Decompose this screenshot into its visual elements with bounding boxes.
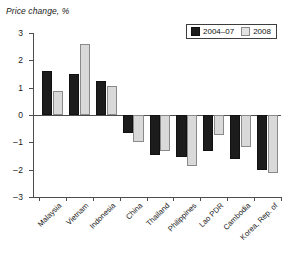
light-square-icon: [241, 27, 250, 36]
x-tick-label-china: China: [124, 201, 144, 221]
y-tick-mark: 2: [29, 170, 33, 171]
x-tick-mark: [200, 197, 201, 201]
bar-china-200407: [123, 115, 133, 133]
x-tick-label-vietnam: Vietnam: [65, 201, 91, 227]
y-axis-title: Price change, %: [6, 6, 69, 16]
y-tick-label: 1: [13, 137, 23, 147]
x-tick-mark: [93, 197, 94, 201]
x-tick-mark: [120, 197, 121, 201]
x-tick-label-malaysia: Malaysia: [36, 201, 64, 229]
y-tick-mark: 3: [29, 197, 33, 198]
y-tick-mark: 3: [29, 33, 33, 34]
chart-legend: 2004–072008: [186, 24, 277, 39]
x-tick-mark: [66, 197, 67, 201]
bar-indonesia-200407: [96, 81, 106, 115]
x-tick-mark: [254, 197, 255, 201]
bar-vietnam-2008: [80, 44, 90, 115]
x-tick-mark: [39, 197, 40, 201]
bar-philippines-2008: [187, 115, 197, 166]
x-tick-mark: [227, 197, 228, 201]
y-tick-mark: 1: [29, 142, 33, 143]
y-tick-label: 3: [13, 192, 23, 202]
y-tick-mark: 1: [29, 88, 33, 89]
bar-cambodia-200407: [230, 115, 240, 159]
legend-label: 2004–07: [203, 27, 234, 36]
bar-china-2008: [133, 115, 143, 142]
bar-korea-rep-of-200407: [257, 115, 267, 170]
bar-malaysia-2008: [53, 91, 63, 115]
y-tick-mark: 2: [29, 60, 33, 61]
y-tick-label: 2: [18, 55, 23, 65]
bar-thailand-2008: [160, 115, 170, 151]
bar-indonesia-2008: [107, 86, 117, 115]
x-axis-line: [33, 197, 281, 198]
bar-cambodia-2008: [241, 115, 251, 147]
bar-thailand-200407: [150, 115, 160, 155]
bar-vietnam-200407: [69, 74, 79, 115]
legend-label: 2008: [253, 27, 271, 36]
bar-lao-pdr-2008: [214, 115, 224, 135]
bar-lao-pdr-200407: [203, 115, 213, 151]
x-tick-mark: [281, 197, 282, 201]
y-tick-label: 1: [18, 83, 23, 93]
x-tick-mark: [173, 197, 174, 201]
bar-korea-rep-of-2008: [268, 115, 278, 173]
x-tick-mark: [147, 197, 148, 201]
x-tick-label-indonesia: Indonesia: [88, 201, 118, 231]
legend-entry-200407: 2004–07: [191, 27, 234, 36]
y-tick-label: 2: [13, 165, 23, 175]
plot-area: 3210123 MalaysiaVietnamIndonesiaChinaTha…: [33, 33, 281, 197]
price-change-bar-chart: Price change, % 3210123 MalaysiaVietnamI…: [0, 0, 289, 254]
bar-philippines-200407: [176, 115, 186, 157]
bar-malaysia-200407: [42, 71, 52, 115]
y-tick-label: 0: [18, 110, 23, 120]
y-tick-label: 3: [18, 28, 23, 38]
y-tick-mark: 0: [29, 115, 33, 116]
legend-entry-2008: 2008: [241, 27, 271, 36]
black-square-icon: [191, 27, 200, 36]
